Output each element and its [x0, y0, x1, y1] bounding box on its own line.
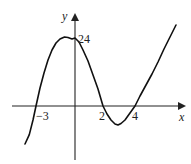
x-axis-label: x — [179, 111, 184, 123]
cubic-curve — [25, 25, 176, 144]
x-tick-label-2: 2 — [99, 110, 105, 122]
graph-canvas — [0, 0, 191, 164]
x-tick-label-4: 4 — [132, 110, 138, 122]
x-axis-arrow-icon — [178, 102, 186, 110]
y-axis-arrow-icon — [71, 13, 79, 21]
x-tick-label-neg3: −3 — [36, 110, 49, 122]
y-axis-label: y — [62, 10, 67, 22]
y-tick-label-24: 24 — [78, 33, 90, 45]
